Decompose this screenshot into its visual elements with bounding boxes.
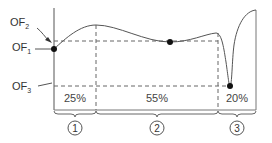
segment-1-percent: 25% [64, 92, 86, 104]
mid-point [167, 39, 173, 45]
of3-leader [38, 83, 52, 86]
of2-label: OF2 [10, 16, 29, 30]
segment-2-number: 2 [154, 123, 160, 134]
brace-3 [218, 111, 256, 117]
segment-1-number: 1 [72, 123, 78, 134]
of1-point [51, 46, 57, 52]
segment-3-number: 3 [234, 123, 240, 134]
brace-2 [96, 111, 218, 117]
of1-label: OF1 [12, 41, 31, 55]
diagram-canvas: OF2 OF1 OF3 25% 55% 20% 1 2 3 [0, 0, 272, 143]
of3-point [227, 83, 233, 89]
segment-2-percent: 55% [146, 92, 168, 104]
of3-label: OF3 [12, 80, 31, 94]
brace-1 [54, 111, 96, 117]
oil-curve [54, 10, 256, 86]
segment-3-percent: 20% [226, 92, 248, 104]
